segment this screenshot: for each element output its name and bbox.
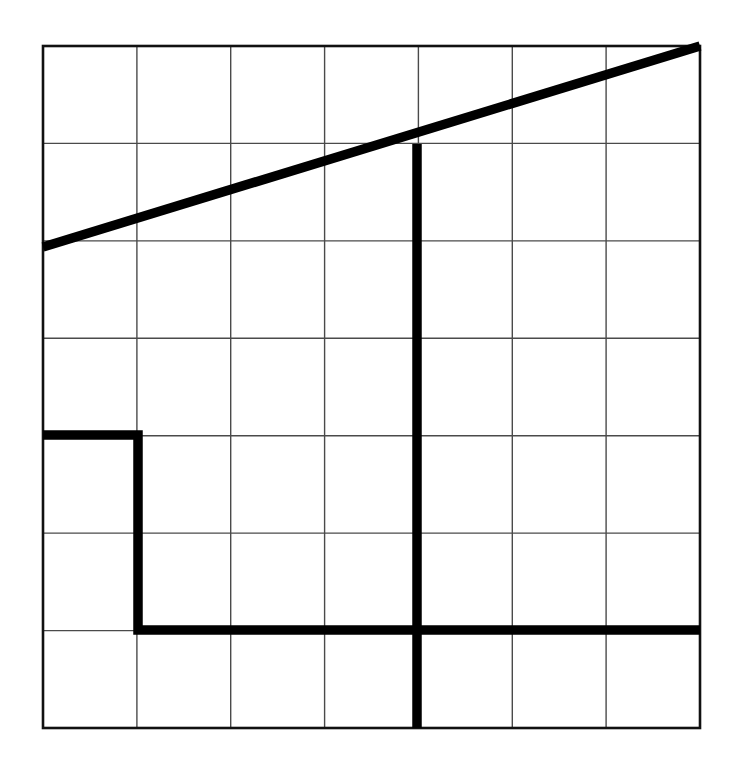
grid-diagram-svg bbox=[0, 0, 736, 770]
background-rect bbox=[0, 0, 736, 770]
diagram-canvas bbox=[0, 0, 736, 770]
